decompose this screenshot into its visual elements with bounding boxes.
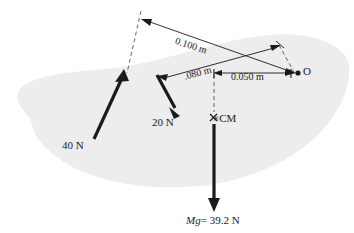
weight-value: = 39.2 N (201, 214, 240, 226)
weight-symbol: Mg (186, 214, 201, 226)
figure-canvas: 40 N 20 N ×CM O Mg= 39.2 N 0.100 m .080 … (0, 0, 354, 233)
pivot-point-label: O (303, 66, 311, 77)
rigid-body-shape (17, 34, 349, 187)
line-of-action-40n-dashed (127, 11, 141, 73)
force-label-40n: 40 N (62, 140, 84, 151)
dim-arrowhead-0100-left (141, 19, 152, 26)
force-label-20n: 20 N (152, 117, 174, 128)
force-vector-mg-head (208, 198, 220, 212)
dimension-label-0050: 0.050 m (231, 72, 264, 82)
pivot-point-o-dot (295, 70, 300, 75)
center-of-mass-label: ×CM (213, 113, 236, 124)
weight-label: Mg= 39.2 N (186, 215, 240, 226)
